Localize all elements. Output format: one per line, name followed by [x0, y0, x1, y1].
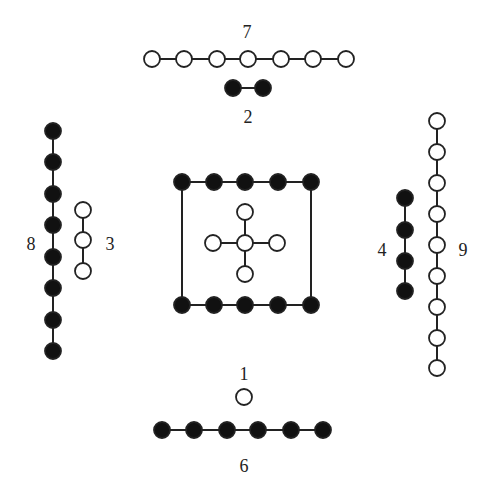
- filled-node-square: [206, 297, 222, 313]
- filled-node-chain-6: [154, 422, 170, 438]
- open-node-cross-arm: [237, 204, 253, 220]
- structure-label-4: 4: [378, 240, 387, 260]
- open-node-chain-7: [144, 51, 160, 67]
- open-node-chain-1: [236, 389, 252, 405]
- open-node-chain-3: [75, 202, 91, 218]
- filled-node-square: [237, 174, 253, 190]
- filled-node-chain-6: [250, 422, 266, 438]
- open-node-cross-arm: [269, 235, 285, 251]
- filled-node-square: [270, 174, 286, 190]
- open-node-chain-9: [429, 113, 445, 129]
- filled-node-chain-2: [255, 80, 271, 96]
- filled-node-chain-6: [186, 422, 202, 438]
- open-node-chain-9: [429, 330, 445, 346]
- open-node-chain-7: [273, 51, 289, 67]
- chain-structures-diagram: 72834916: [0, 0, 490, 491]
- open-node-chain-9: [429, 144, 445, 160]
- filled-node-chain-8: [45, 217, 61, 233]
- filled-node-chain-6: [283, 422, 299, 438]
- open-node-chain-9: [429, 237, 445, 253]
- structure-label-2: 2: [244, 107, 253, 127]
- structure-label-7: 7: [243, 22, 252, 42]
- filled-node-chain-8: [45, 249, 61, 265]
- open-node-chain-3: [75, 232, 91, 248]
- open-node-chain-7: [338, 51, 354, 67]
- open-node-chain-9: [429, 299, 445, 315]
- filled-node-chain-8: [45, 343, 61, 359]
- filled-node-square: [174, 174, 190, 190]
- filled-node-chain-8: [45, 280, 61, 296]
- open-node-chain-9: [429, 206, 445, 222]
- filled-node-square: [174, 297, 190, 313]
- open-node-chain-7: [305, 51, 321, 67]
- diagram-canvas: 72834916: [0, 0, 490, 491]
- structure-label-8: 8: [27, 234, 36, 254]
- open-node-chain-7: [209, 51, 225, 67]
- open-node-chain-7: [240, 51, 256, 67]
- filled-node-square: [206, 174, 222, 190]
- open-node-chain-9: [429, 268, 445, 284]
- open-node-chain-7: [176, 51, 192, 67]
- open-node-cross-center: [237, 235, 253, 251]
- open-node-cross-arm: [237, 266, 253, 282]
- open-node-chain-3: [75, 263, 91, 279]
- structure-label-9: 9: [459, 240, 468, 260]
- filled-node-square: [237, 297, 253, 313]
- structure-label-6: 6: [240, 456, 249, 476]
- filled-node-chain-8: [45, 186, 61, 202]
- open-node-chain-9: [429, 360, 445, 376]
- filled-node-square: [270, 297, 286, 313]
- filled-node-chain-4: [397, 190, 413, 206]
- open-node-chain-9: [429, 175, 445, 191]
- filled-node-chain-8: [45, 154, 61, 170]
- filled-node-chain-4: [397, 283, 413, 299]
- filled-node-chain-2: [225, 80, 241, 96]
- structure-label-3: 3: [106, 234, 115, 254]
- filled-node-square: [303, 174, 319, 190]
- open-node-cross-arm: [205, 235, 221, 251]
- filled-node-chain-8: [45, 123, 61, 139]
- structure-label-1: 1: [240, 364, 249, 384]
- filled-node-chain-6: [315, 422, 331, 438]
- filled-node-square: [303, 297, 319, 313]
- filled-node-chain-6: [219, 422, 235, 438]
- filled-node-chain-4: [397, 222, 413, 238]
- filled-node-chain-4: [397, 253, 413, 269]
- filled-node-chain-8: [45, 312, 61, 328]
